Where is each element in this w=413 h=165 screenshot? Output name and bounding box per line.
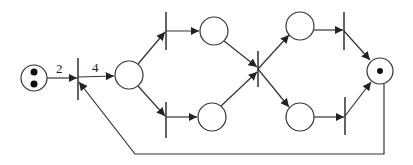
place-p5 bbox=[286, 103, 314, 131]
arc-t0-p1 bbox=[78, 76, 114, 77]
place-p4 bbox=[286, 12, 314, 40]
arc-t3-p4 bbox=[258, 35, 289, 69]
arc-p1-t2 bbox=[138, 86, 165, 116]
arc-t5-p6 bbox=[345, 82, 371, 116]
arc-t4-p6 bbox=[344, 31, 370, 60]
arc-p1-t1 bbox=[138, 32, 165, 64]
arc-weight-label-t0-p1: 4 bbox=[92, 60, 99, 75]
arc-p2-t3 bbox=[224, 41, 257, 67]
token-icon bbox=[31, 81, 38, 88]
arc-weight-label-p0-t0: 2 bbox=[56, 61, 63, 76]
arc-feedback-p6-t0 bbox=[79, 82, 384, 154]
place-p1 bbox=[115, 61, 143, 89]
place-p3 bbox=[198, 103, 226, 131]
petri-net-diagram: 2 4 bbox=[0, 0, 413, 165]
place-p2 bbox=[200, 17, 228, 45]
arc-t3-p5 bbox=[258, 69, 289, 107]
token-icon bbox=[31, 69, 38, 76]
arc-p3-t3 bbox=[221, 72, 257, 106]
token-icon bbox=[377, 68, 383, 74]
